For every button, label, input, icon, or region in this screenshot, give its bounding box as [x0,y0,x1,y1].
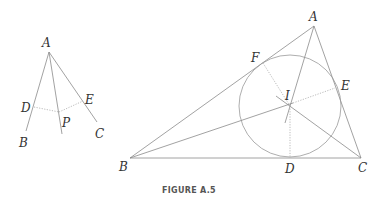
right-diagram: A B C D E F I [118,10,367,176]
bisector-b [130,103,293,158]
label-b: B [18,136,28,150]
label-c: C [95,127,104,141]
label-i: I [284,89,290,103]
ray-ac [49,52,97,122]
label-a: A [308,10,318,24]
label-d: D [284,162,295,176]
bisector-b-extension [293,88,335,103]
label-p: P [61,116,71,130]
figure-canvas: A B C D E P A B C D E F I FIGURE A.5 [0,0,387,205]
angle-bisector [49,52,62,134]
side-ac [314,26,361,158]
perpendicular-pe [59,101,83,112]
label-c: C [358,161,367,175]
bisector-a [285,26,314,123]
label-d: D [20,101,31,115]
ray-ab [26,52,49,131]
label-e: E [84,93,94,107]
label-e: E [340,79,350,93]
label-a: A [41,36,51,50]
label-b: B [118,160,128,174]
perpendicular-pd [34,107,59,112]
left-diagram: A B C D E P [18,36,104,150]
figure-caption: FIGURE A.5 [162,186,216,195]
label-f: F [250,51,260,65]
